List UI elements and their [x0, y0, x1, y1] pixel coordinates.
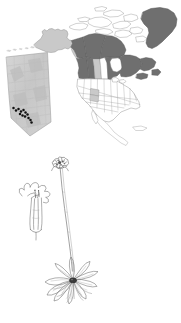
occurrence-dot — [20, 110, 23, 113]
occurrence-dot — [21, 114, 24, 117]
occurrence-dot — [27, 117, 30, 120]
figure-canvas — [0, 0, 181, 323]
distribution-map-panel — [0, 0, 181, 152]
occurrence-dot — [22, 109, 25, 112]
illustration-background — [0, 148, 181, 323]
plant-drawing-svg — [0, 148, 181, 323]
occurrence-dot — [24, 115, 27, 118]
occurrence-dot — [12, 107, 15, 110]
crown — [69, 278, 76, 283]
occurrence-dot — [24, 111, 27, 114]
occurrence-dot — [26, 113, 29, 116]
region-colorado — [90, 95, 98, 102]
occurrence-dot — [30, 121, 33, 124]
occurrence-dot — [17, 108, 20, 111]
occurrence-dot — [19, 113, 22, 116]
occurrence-dot — [29, 119, 32, 122]
plant-illustration-panel — [0, 148, 181, 323]
occurrence-dot — [15, 109, 18, 112]
north-america-map-svg — [0, 0, 181, 152]
